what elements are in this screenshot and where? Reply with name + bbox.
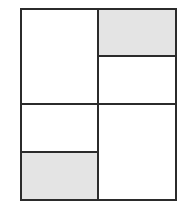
panel-diagram — [0, 0, 182, 216]
panel-left-bottom-shaded — [21, 153, 97, 200]
horizontal-divider-center — [20, 103, 177, 105]
panel-right-top-shaded — [99, 9, 176, 55]
horizontal-divider-right-top — [97, 55, 177, 57]
horizontal-divider-left-bottom — [20, 151, 99, 153]
